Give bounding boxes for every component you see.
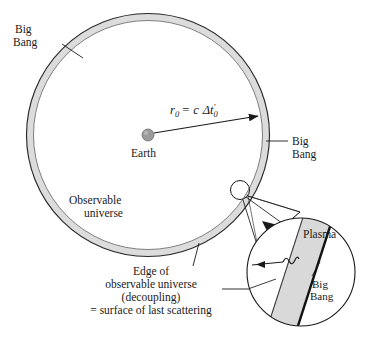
cosmology-diagram: Big Bang Earth r0=cΔt′0 Big Bang Observa… xyxy=(0,0,373,337)
earth-marker-group xyxy=(142,129,154,141)
inset-magnified-view xyxy=(245,208,359,332)
big-bang-label-top-line2: Bang xyxy=(13,36,38,49)
diagram-canvas: Big Bang Earth r0=cΔt′0 Big Bang Observa… xyxy=(0,0,373,337)
formula-c: c xyxy=(193,103,199,117)
observable-universe-label-line1: Observable xyxy=(69,194,121,206)
radius-formula-label: r0=cΔt′0 xyxy=(170,102,218,119)
caption-line-3: (decoupling) xyxy=(122,291,181,304)
formula-delta-t: Δt xyxy=(202,103,214,117)
caption-line-1: Edge of xyxy=(133,265,169,278)
inset-big-bang-line2: Bang xyxy=(310,290,334,302)
formula-delta-sub: 0 xyxy=(213,109,218,119)
big-bang-label-top-line1: Big xyxy=(15,23,32,36)
earth-label: Earth xyxy=(131,147,156,159)
big-bang-label-right-line2: Bang xyxy=(292,148,317,161)
svg-text:r0=cΔt′0: r0=cΔt′0 xyxy=(170,102,218,119)
formula-r-sub: 0 xyxy=(175,109,180,119)
formula-equals: = xyxy=(182,103,189,117)
caption-line-2: observable universe xyxy=(105,278,197,290)
observable-universe-label-line2: universe xyxy=(84,207,123,219)
caption-line-4: = surface of last scattering xyxy=(90,304,212,317)
inset-big-bang-line1: Big xyxy=(312,278,328,290)
earth-dot-highlight xyxy=(144,131,148,135)
magnifier-target-circle xyxy=(231,181,250,200)
radius-arrow xyxy=(154,116,258,133)
big-bang-label-right-line1: Big xyxy=(292,135,309,148)
earth-dot-icon xyxy=(142,129,154,141)
plasma-label: Plasma xyxy=(303,228,336,240)
